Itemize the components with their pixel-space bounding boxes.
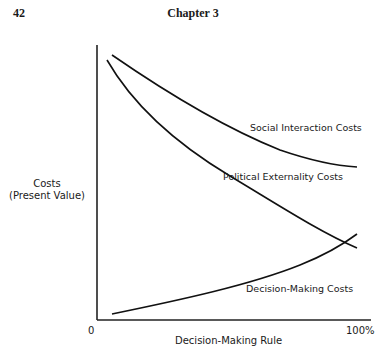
y-axis-label: Costs (Present Value) — [8, 178, 86, 202]
decision-making-costs-label: Decision-Making Costs — [246, 283, 353, 294]
x-axis-label: Decision-Making Rule — [175, 335, 282, 346]
political-externality-costs-label: Political Externality Costs — [223, 171, 343, 182]
social-interaction-costs-label: Social Interaction Costs — [250, 122, 362, 133]
x-tick-zero: 0 — [88, 325, 94, 336]
y-axis-label-line2: (Present Value) — [8, 190, 86, 202]
political-externality-costs-curve — [107, 60, 357, 248]
y-axis-label-line1: Costs — [8, 178, 86, 190]
decision-making-costs-curve — [112, 234, 357, 314]
social-interaction-costs-curve — [112, 55, 357, 167]
x-tick-max: 100% — [346, 325, 375, 336]
